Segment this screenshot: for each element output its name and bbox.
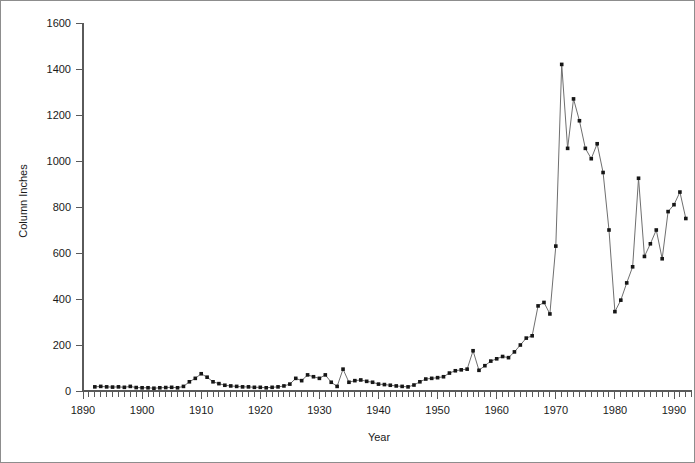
series-data-point <box>383 383 387 387</box>
x-axis-tick-label: 1980 <box>603 404 627 416</box>
series-data-point <box>235 385 239 389</box>
series-data-point <box>613 310 617 314</box>
series-line <box>95 64 686 388</box>
series-data-point <box>223 383 227 387</box>
series-data-point <box>607 228 611 232</box>
series-data-point <box>595 142 599 146</box>
series-data-point <box>300 379 304 383</box>
series-data-point <box>294 377 298 381</box>
series-data-point <box>424 377 428 381</box>
line-chart: 02004006008001000120014001600 1890190019… <box>1 1 695 463</box>
series-data-point <box>519 343 523 347</box>
series-data-point <box>335 385 339 389</box>
y-axis-tick-label: 0 <box>65 385 71 397</box>
series-data-point <box>637 176 641 180</box>
series-data-point <box>288 382 292 386</box>
series-data-point <box>400 385 404 389</box>
series-data-point <box>217 382 221 386</box>
y-axis-tick-label: 1000 <box>47 155 71 167</box>
y-axis-tick-label: 600 <box>53 247 71 259</box>
series-data-point <box>359 378 363 382</box>
series-data-point <box>123 386 127 390</box>
y-axis-tick-label: 200 <box>53 339 71 351</box>
series-data-point <box>93 385 97 389</box>
series-data-point <box>430 377 434 381</box>
series-data-point <box>625 281 629 285</box>
series-data-point <box>394 384 398 388</box>
series-data-point <box>454 369 458 373</box>
series-data-point <box>105 385 109 389</box>
series-data-point <box>649 242 653 246</box>
series-data-point <box>211 380 215 384</box>
series-data-point <box>548 312 552 316</box>
series-data-point <box>524 336 528 340</box>
series-data-point <box>389 383 393 387</box>
series-data-point <box>111 385 115 389</box>
data-series-group <box>93 63 688 390</box>
series-data-point <box>270 386 274 390</box>
series-data-point <box>654 228 658 232</box>
series-data-point <box>684 217 688 221</box>
series-data-point <box>353 379 357 383</box>
series-data-point <box>365 380 369 384</box>
series-data-point <box>442 375 446 379</box>
series-data-point <box>164 386 168 390</box>
series-data-point <box>259 386 263 390</box>
x-axis-tick-label: 1920 <box>248 404 272 416</box>
series-data-point <box>99 385 103 389</box>
y-axis-tick-label: 1600 <box>47 17 71 29</box>
series-data-point <box>513 350 517 354</box>
series-data-point <box>205 375 209 379</box>
y-axis-tick-label: 1200 <box>47 109 71 121</box>
series-data-point <box>495 357 499 361</box>
series-data-point <box>507 356 511 360</box>
series-data-point <box>229 384 233 388</box>
series-data-point <box>140 386 144 390</box>
series-data-point <box>471 349 475 353</box>
x-axis-tick-label: 1940 <box>366 404 390 416</box>
series-data-point <box>241 385 245 389</box>
series-data-point <box>465 367 469 371</box>
series-data-point <box>666 210 670 214</box>
series-data-point <box>436 376 440 380</box>
series-data-point <box>146 386 150 390</box>
x-axis-tick-label: 1970 <box>544 404 568 416</box>
series-data-point <box>589 157 593 161</box>
series-data-point <box>501 355 505 359</box>
series-data-point <box>318 377 322 381</box>
x-axis-tick-label: 1990 <box>662 404 686 416</box>
series-data-point <box>371 380 375 384</box>
series-data-point <box>406 385 410 389</box>
series-data-point <box>459 368 463 372</box>
series-data-point <box>418 380 422 384</box>
chart-figure: 02004006008001000120014001600 1890190019… <box>0 0 695 463</box>
series-data-point <box>247 385 251 389</box>
series-data-point <box>584 147 588 151</box>
y-axis-title: Column Inches <box>17 164 29 238</box>
x-axis-tick-label: 1890 <box>71 404 95 416</box>
series-data-point <box>660 257 664 261</box>
x-axis-tick-label: 1900 <box>130 404 154 416</box>
series-data-point <box>619 298 623 302</box>
series-data-point <box>530 334 534 338</box>
y-axis-group: 02004006008001000120014001600 <box>47 17 83 397</box>
series-data-point <box>152 386 156 390</box>
series-data-point <box>312 375 316 379</box>
series-data-point <box>554 244 558 248</box>
series-data-point <box>448 371 452 375</box>
series-data-point <box>672 203 676 207</box>
series-data-point <box>264 386 268 390</box>
series-data-point <box>412 383 416 387</box>
series-data-point <box>170 386 174 390</box>
series-data-point <box>117 385 121 389</box>
series-data-point <box>566 147 570 151</box>
y-axis-tick-label: 1400 <box>47 63 71 75</box>
x-axis-group: 1890190019101920193019401950196019701980… <box>71 391 692 416</box>
y-axis-tick-label: 800 <box>53 201 71 213</box>
series-data-point <box>188 380 192 384</box>
series-data-point <box>276 385 280 389</box>
series-data-point <box>542 301 546 305</box>
series-data-point <box>377 382 381 386</box>
series-data-point <box>483 364 487 368</box>
series-data-point <box>601 171 605 175</box>
